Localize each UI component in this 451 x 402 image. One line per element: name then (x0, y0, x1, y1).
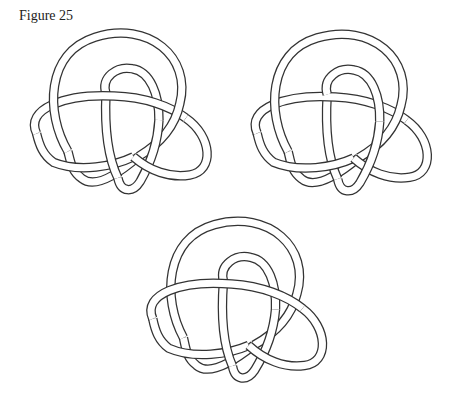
knot-diagram-top-left (0, 0, 230, 210)
knot-diagram-top-right (218, 0, 451, 210)
knot-diagram-bottom-center (112, 180, 342, 395)
